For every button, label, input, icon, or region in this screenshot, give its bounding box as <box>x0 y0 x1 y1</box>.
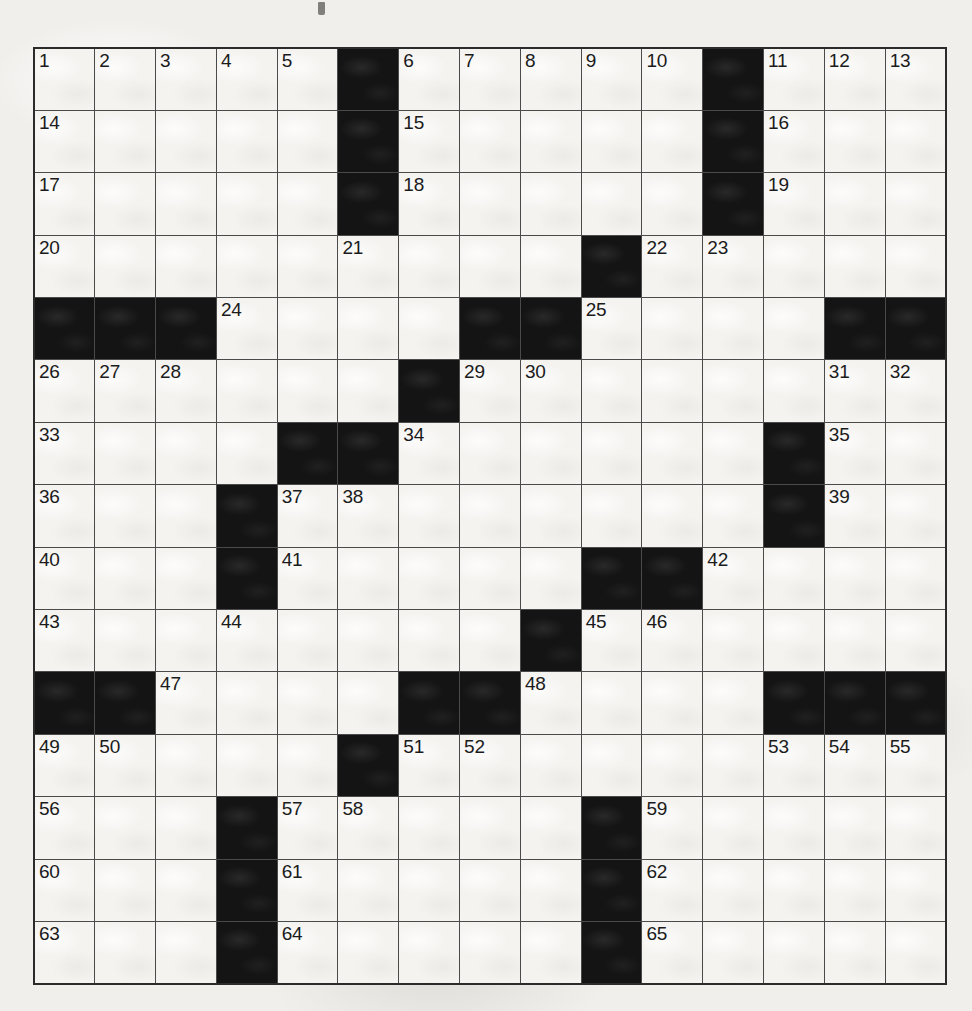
crossword-entry-cell[interactable] <box>642 485 703 547</box>
crossword-entry-cell[interactable] <box>338 360 399 422</box>
crossword-entry-cell[interactable] <box>399 298 460 360</box>
crossword-entry-cell[interactable]: 35 <box>824 422 885 484</box>
crossword-entry-cell[interactable] <box>642 173 703 235</box>
crossword-entry-cell[interactable] <box>520 797 581 859</box>
crossword-entry-cell[interactable] <box>460 235 521 297</box>
crossword-entry-cell[interactable] <box>885 235 946 297</box>
crossword-entry-cell[interactable] <box>885 547 946 609</box>
crossword-entry-cell[interactable] <box>460 422 521 484</box>
crossword-entry-cell[interactable]: 5 <box>277 48 338 110</box>
crossword-entry-cell[interactable] <box>156 110 217 172</box>
crossword-entry-cell[interactable] <box>460 921 521 983</box>
crossword-entry-cell[interactable] <box>824 610 885 672</box>
crossword-entry-cell[interactable]: 21 <box>338 235 399 297</box>
crossword-entry-cell[interactable] <box>277 360 338 422</box>
crossword-entry-cell[interactable]: 55 <box>885 734 946 796</box>
crossword-entry-cell[interactable]: 22 <box>642 235 703 297</box>
crossword-entry-cell[interactable]: 50 <box>95 734 156 796</box>
crossword-entry-cell[interactable]: 65 <box>642 921 703 983</box>
crossword-entry-cell[interactable] <box>642 110 703 172</box>
crossword-entry-cell[interactable]: 38 <box>338 485 399 547</box>
crossword-entry-cell[interactable]: 14 <box>34 110 95 172</box>
crossword-entry-cell[interactable] <box>95 859 156 921</box>
crossword-entry-cell[interactable] <box>460 797 521 859</box>
crossword-entry-cell[interactable] <box>338 672 399 734</box>
crossword-entry-cell[interactable]: 43 <box>34 610 95 672</box>
crossword-entry-cell[interactable] <box>399 859 460 921</box>
crossword-entry-cell[interactable]: 12 <box>824 48 885 110</box>
crossword-entry-cell[interactable] <box>703 921 764 983</box>
crossword-entry-cell[interactable]: 19 <box>764 173 825 235</box>
crossword-entry-cell[interactable] <box>885 110 946 172</box>
crossword-entry-cell[interactable] <box>216 422 277 484</box>
crossword-entry-cell[interactable] <box>95 547 156 609</box>
crossword-entry-cell[interactable] <box>277 672 338 734</box>
crossword-entry-cell[interactable] <box>216 734 277 796</box>
crossword-entry-cell[interactable]: 17 <box>34 173 95 235</box>
crossword-entry-cell[interactable] <box>156 859 217 921</box>
crossword-entry-cell[interactable] <box>642 360 703 422</box>
crossword-entry-cell[interactable] <box>703 859 764 921</box>
crossword-entry-cell[interactable]: 11 <box>764 48 825 110</box>
crossword-entry-cell[interactable]: 31 <box>824 360 885 422</box>
crossword-entry-cell[interactable] <box>399 610 460 672</box>
crossword-entry-cell[interactable] <box>885 173 946 235</box>
crossword-entry-cell[interactable]: 60 <box>34 859 95 921</box>
crossword-entry-cell[interactable] <box>338 298 399 360</box>
crossword-entry-cell[interactable] <box>338 610 399 672</box>
crossword-entry-cell[interactable]: 16 <box>764 110 825 172</box>
crossword-entry-cell[interactable] <box>703 422 764 484</box>
crossword-entry-cell[interactable]: 32 <box>885 360 946 422</box>
crossword-entry-cell[interactable] <box>885 859 946 921</box>
crossword-entry-cell[interactable] <box>95 610 156 672</box>
crossword-entry-cell[interactable]: 24 <box>216 298 277 360</box>
crossword-entry-cell[interactable]: 64 <box>277 921 338 983</box>
crossword-entry-cell[interactable] <box>703 672 764 734</box>
crossword-entry-cell[interactable]: 30 <box>520 360 581 422</box>
crossword-entry-cell[interactable]: 33 <box>34 422 95 484</box>
crossword-entry-cell[interactable]: 3 <box>156 48 217 110</box>
crossword-entry-cell[interactable] <box>338 921 399 983</box>
crossword-entry-cell[interactable] <box>460 610 521 672</box>
crossword-entry-cell[interactable]: 6 <box>399 48 460 110</box>
crossword-entry-cell[interactable] <box>764 298 825 360</box>
crossword-entry-cell[interactable]: 25 <box>581 298 642 360</box>
crossword-entry-cell[interactable] <box>156 734 217 796</box>
crossword-entry-cell[interactable] <box>460 173 521 235</box>
crossword-entry-cell[interactable] <box>520 734 581 796</box>
crossword-entry-cell[interactable]: 42 <box>703 547 764 609</box>
crossword-entry-cell[interactable] <box>520 235 581 297</box>
crossword-entry-cell[interactable] <box>216 235 277 297</box>
crossword-entry-cell[interactable] <box>581 734 642 796</box>
crossword-entry-cell[interactable] <box>95 235 156 297</box>
crossword-entry-cell[interactable] <box>581 173 642 235</box>
crossword-entry-cell[interactable] <box>581 422 642 484</box>
crossword-entry-cell[interactable]: 8 <box>520 48 581 110</box>
crossword-entry-cell[interactable] <box>885 797 946 859</box>
crossword-entry-cell[interactable] <box>642 672 703 734</box>
crossword-entry-cell[interactable]: 47 <box>156 672 217 734</box>
crossword-entry-cell[interactable]: 37 <box>277 485 338 547</box>
crossword-entry-cell[interactable] <box>460 859 521 921</box>
crossword-entry-cell[interactable] <box>399 921 460 983</box>
crossword-entry-cell[interactable] <box>885 485 946 547</box>
crossword-entry-cell[interactable] <box>885 610 946 672</box>
crossword-entry-cell[interactable]: 57 <box>277 797 338 859</box>
crossword-entry-cell[interactable] <box>824 547 885 609</box>
crossword-entry-cell[interactable] <box>156 485 217 547</box>
crossword-entry-cell[interactable] <box>642 298 703 360</box>
crossword-entry-cell[interactable]: 56 <box>34 797 95 859</box>
crossword-entry-cell[interactable] <box>824 921 885 983</box>
crossword-entry-cell[interactable] <box>399 235 460 297</box>
crossword-entry-cell[interactable] <box>885 422 946 484</box>
crossword-entry-cell[interactable]: 45 <box>581 610 642 672</box>
crossword-entry-cell[interactable] <box>520 422 581 484</box>
crossword-entry-cell[interactable]: 41 <box>277 547 338 609</box>
crossword-entry-cell[interactable] <box>277 298 338 360</box>
crossword-entry-cell[interactable]: 13 <box>885 48 946 110</box>
crossword-entry-cell[interactable]: 2 <box>95 48 156 110</box>
crossword-entry-cell[interactable] <box>277 173 338 235</box>
crossword-entry-cell[interactable] <box>581 672 642 734</box>
crossword-entry-cell[interactable]: 29 <box>460 360 521 422</box>
crossword-entry-cell[interactable] <box>703 797 764 859</box>
